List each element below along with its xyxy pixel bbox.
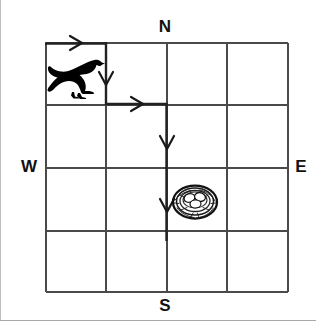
nest-icon [171, 180, 219, 222]
grid-and-path [0, 0, 316, 326]
bird-icon [47, 52, 105, 100]
diagram-canvas: N S W E [0, 0, 316, 326]
